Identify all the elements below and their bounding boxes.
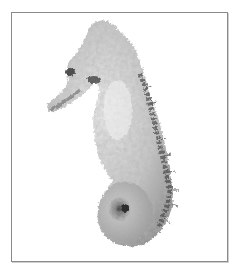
seahorse-body bbox=[47, 20, 179, 246]
seahorse-photo bbox=[0, 0, 240, 273]
